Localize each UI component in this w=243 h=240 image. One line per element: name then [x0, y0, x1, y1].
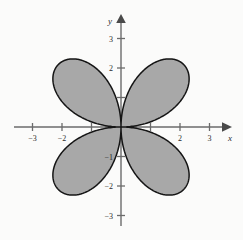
x-tick-label: −2	[58, 134, 67, 143]
x-axis-label: x	[227, 133, 232, 143]
y-tick-label: 3	[109, 35, 113, 44]
y-axis-label: y	[107, 16, 112, 26]
rose-curve-figure: −3−22332−1−2−3 x y	[0, 0, 243, 240]
x-tick-label: 2	[178, 134, 182, 143]
x-tick-label: 3	[208, 134, 212, 143]
x-tick-label: −3	[28, 134, 37, 143]
y-tick-label: −3	[104, 212, 113, 221]
y-tick-label: 2	[109, 64, 113, 73]
y-axis-arrow-icon	[116, 14, 126, 23]
x-axis-arrow-icon	[222, 122, 232, 132]
y-tick-label: −1	[104, 153, 113, 162]
plot-canvas: −3−22332−1−2−3 x y	[0, 0, 243, 240]
y-tick-label: −2	[104, 182, 113, 191]
